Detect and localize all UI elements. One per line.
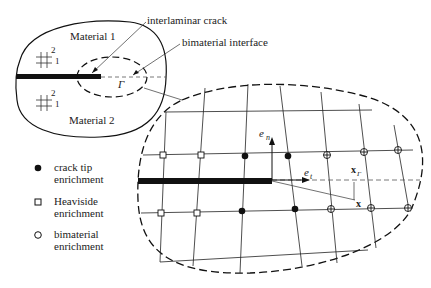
xfem-diagram: Material 1 Material 2 interlaminar crack… [0,0,431,288]
svg-text:bimaterial: bimaterial [54,228,99,240]
svg-text:x: x [356,198,361,209]
svg-text:2: 2 [51,88,56,98]
svg-text:e: e [259,127,264,139]
svg-text:crack tip: crack tip [54,161,93,173]
svg-text:Heaviside: Heaviside [54,195,98,207]
svg-text:n: n [266,133,270,142]
svg-text:1: 1 [55,56,60,66]
heaviside-symbol [35,199,41,205]
legend [35,165,42,239]
gamma-label: Γ [117,78,125,90]
interlaminar-crack-label: interlaminar crack [147,14,228,26]
svg-text:Γ: Γ [356,170,362,178]
svg-text:2: 2 [51,45,56,55]
svg-text:e: e [304,166,309,178]
axis-glyph-top [36,52,52,68]
bimaterial-interface-label: bimaterial interface [182,36,268,48]
crack-bar-small [16,74,101,79]
crack-bar-large [138,178,272,184]
svg-text:1: 1 [55,99,60,109]
svg-text:enrichment: enrichment [54,173,103,185]
svg-text:enrichment: enrichment [54,240,103,252]
svg-text:x: x [351,164,356,175]
crack-tip-symbol [35,165,42,172]
bimaterial-nodes [324,147,412,213]
material1-label: Material 1 [70,30,116,42]
axis-glyph-bottom [36,95,52,111]
material2-label: Material 2 [69,114,115,126]
svg-text:enrichment: enrichment [54,207,103,219]
zoomed-domain [138,84,423,273]
bimaterial-symbol [35,232,42,239]
